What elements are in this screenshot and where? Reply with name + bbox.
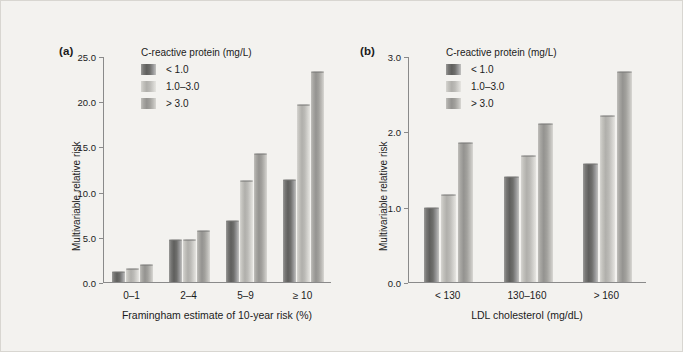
legend-label: 1.0–3.0 [166,81,199,92]
bar [226,221,239,282]
bar-top-cap [311,71,324,73]
bar-top-cap [458,142,473,144]
x-axis-label-a: Framingham estimate of 10-year risk (%) [103,309,331,321]
legend-label: < 1.0 [166,64,189,75]
x-tick-label: 5–9 [237,290,254,301]
bar-top-cap [169,239,182,241]
y-tick-mark [99,283,103,284]
bar [283,180,296,282]
legend-swatch [141,81,156,92]
y-tick-mark [404,57,408,58]
x-tick-label: 130–160 [508,290,547,301]
bar-top-cap [441,194,456,196]
bar-top-cap [583,163,598,165]
bar-group [283,57,324,282]
bar [240,181,253,282]
bar [197,231,210,282]
bar [538,124,553,282]
bar [140,265,153,282]
bar-top-cap [140,264,153,266]
y-tick-mark [99,57,103,58]
bar-top-cap [600,115,615,117]
y-tick-mark [99,147,103,148]
legend-swatch [446,64,461,75]
bar-top-cap [424,207,439,209]
y-tick-mark [404,132,408,133]
bar-top-cap [197,230,210,232]
legend-label: 1.0–3.0 [471,81,504,92]
x-axis-line-a [103,282,331,283]
bar [458,143,473,282]
bar-top-cap [126,268,139,270]
legend-item: > 3.0 [446,98,557,109]
x-tick-label: 2–4 [180,290,197,301]
figure-container: (a) Multivariable relative risk 0.05.010… [0,0,683,352]
legend-swatch [446,81,461,92]
bar-top-cap [617,71,632,73]
bar [504,177,519,282]
legend-item: < 1.0 [141,64,252,75]
legend-swatch [141,64,156,75]
chart-panel-a: (a) Multivariable relative risk 0.05.010… [1,1,342,352]
legend-label: < 1.0 [471,64,494,75]
bar-top-cap [226,220,239,222]
bar [112,272,125,282]
y-tick-mark [99,238,103,239]
bar-top-cap [183,239,196,241]
bar [297,105,310,282]
legend-item: < 1.0 [446,64,557,75]
y-tick-mark [404,208,408,209]
y-tick-mark [404,283,408,284]
legend-title-a: C-reactive protein (mg/L) [141,47,252,58]
bar [311,72,324,282]
bar [600,116,615,282]
bar [617,72,632,282]
legend-label: > 3.0 [166,98,189,109]
x-axis-line-b [408,282,646,283]
bar-top-cap [504,176,519,178]
x-tick-label: < 130 [435,290,460,301]
bar [583,164,598,282]
y-axis-label-b: Multivariable relative risk [378,142,389,251]
bar-top-cap [297,104,310,106]
bar [424,208,439,282]
x-axis-label-b: LDL cholesterol (mg/dL) [408,309,646,321]
bar [169,240,182,282]
legend-swatch [141,98,156,109]
legend-item: 1.0–3.0 [446,81,557,92]
x-tick-label: ≥ 10 [293,290,312,301]
bar-top-cap [240,180,253,182]
bar-top-cap [112,271,125,273]
bar [254,154,267,282]
legend-swatch [446,98,461,109]
legend-title-b: C-reactive protein (mg/L) [446,47,557,58]
bar [521,156,536,282]
bar-top-cap [254,153,267,155]
legend-item: 1.0–3.0 [141,81,252,92]
x-tick-label: 0–1 [123,290,140,301]
panel-label-b: (b) [360,45,375,57]
legend-b: C-reactive protein (mg/L) < 1.01.0–3.0> … [446,47,557,115]
bar [126,269,139,282]
bar-group [583,57,632,282]
y-tick-mark [99,102,103,103]
legend-item: > 3.0 [141,98,252,109]
bar-top-cap [521,155,536,157]
legend-label: > 3.0 [471,98,494,109]
legend-a: C-reactive protein (mg/L) < 1.01.0–3.0> … [141,47,252,115]
chart-panel-b: (b) Multivariable relative risk 0.01.02.… [342,1,683,352]
bar [183,240,196,282]
panel-label-a: (a) [59,45,73,57]
bar-top-cap [538,123,553,125]
bar-top-cap [283,179,296,181]
y-tick-mark [99,193,103,194]
bar [441,195,456,282]
x-tick-label: > 160 [594,290,619,301]
